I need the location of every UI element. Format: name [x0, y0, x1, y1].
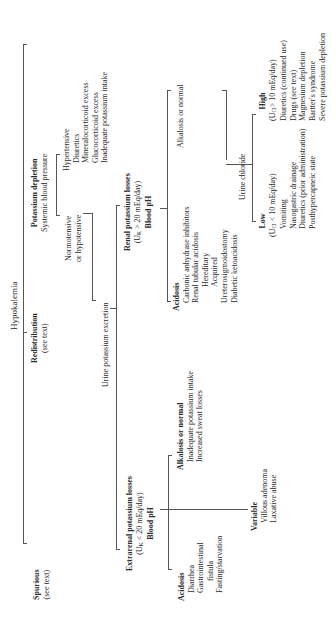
connector [252, 114, 253, 222]
node-extrarenal-alkalosis: Alkalosis or normal Inadequate potassium… [176, 371, 205, 470]
connector [168, 455, 169, 570]
connector [252, 114, 256, 115]
connector [226, 90, 227, 160]
node-spurious: Spurious (see text) [32, 569, 51, 600]
connector [23, 44, 24, 544]
connector [56, 215, 60, 216]
connector [23, 543, 27, 544]
node-normotensive: Normotensive or hypotensive [64, 215, 83, 262]
connector [168, 569, 172, 570]
node-renal-alkalosis: Alkalosis or normal [176, 84, 186, 148]
connector [116, 205, 117, 550]
node-urine-potassium-excretion: Urine potassium excretion [101, 303, 111, 387]
node-hypertensive: Hypertensive Diuretics Mineralocorticoid… [62, 72, 110, 171]
connector [56, 154, 57, 216]
connector [167, 90, 171, 91]
node-extrarenal-losses: Extrarenal potassium losses (UK < 20 mEq… [125, 476, 156, 571]
connector [110, 308, 116, 309]
connector [116, 549, 120, 550]
connector [116, 205, 120, 206]
node-potassium-depletion: Potassium depletion Systemic blood press… [30, 154, 49, 232]
connector [92, 300, 96, 301]
node-urine-chloride-high: High (UCl> 10 mEq/day) Diuretics (contin… [258, 33, 327, 121]
connector [92, 213, 93, 301]
node-extrarenal-acidosis: Acidosis Diarrhea Gastrointestinal fistu… [177, 536, 225, 601]
connector [168, 455, 172, 456]
connector [167, 90, 168, 302]
node-renal-acidosis: Acidosis Carbonic anhydrase inhibitors R… [172, 207, 239, 311]
connector [222, 90, 226, 91]
connector [252, 221, 256, 222]
node-urine-chloride-low: Low (UCl < 10 mEq/day) Vomiting Nasogast… [258, 129, 318, 237]
connector [23, 332, 27, 333]
connector [56, 154, 60, 155]
node-urine-chloride: Urine chloride [238, 154, 248, 200]
node-extrarenal-variable: Variable Villous adenoma Laxative abuse [250, 469, 279, 531]
connector [83, 213, 92, 214]
connector [167, 301, 171, 302]
connector [23, 44, 27, 45]
node-renal-losses: Renal potassium losses (UK > 20 mEq/day)… [123, 173, 154, 251]
connector [160, 509, 248, 510]
node-redistribution: Redistribution (see text) [30, 313, 49, 363]
node-hypokalemia: Hypokalemia [10, 282, 20, 331]
